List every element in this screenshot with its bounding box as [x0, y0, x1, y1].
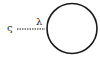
edge-label: λ	[36, 17, 42, 27]
circle-node	[47, 4, 97, 54]
diagram-canvas	[0, 0, 100, 57]
source-label: ς	[7, 23, 13, 33]
